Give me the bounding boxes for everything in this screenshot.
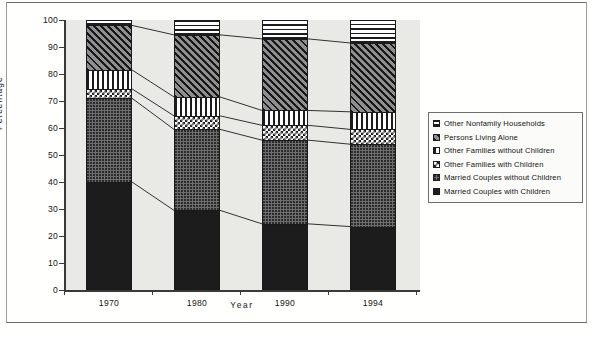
bar-segment <box>174 210 220 290</box>
left-rule <box>6 2 7 323</box>
y-tick-label: 50 <box>18 150 58 160</box>
x-tick <box>152 290 153 295</box>
bar-segment <box>86 182 132 290</box>
x-tick <box>240 290 241 295</box>
y-tick-label: 100 <box>18 15 58 25</box>
bar-1994[interactable] <box>350 20 396 290</box>
y-tick-label: 0 <box>18 285 58 295</box>
top-rule <box>6 2 587 3</box>
y-tick <box>59 155 65 156</box>
bar-1990[interactable] <box>262 20 308 290</box>
y-tick-label: 40 <box>18 177 58 187</box>
y-tick <box>59 47 65 48</box>
bar-segment <box>86 70 132 89</box>
y-tick <box>59 128 65 129</box>
bar-1970[interactable] <box>86 20 132 290</box>
bottom-rule <box>6 322 587 323</box>
legend-item[interactable]: Other Nonfamily Households <box>433 118 577 129</box>
legend-item[interactable]: Married Couples with Children <box>433 186 577 197</box>
legend: Other Nonfamily HouseholdsPersons Living… <box>428 112 583 203</box>
bar-segment <box>350 43 396 112</box>
legend-swatch-icon <box>433 174 440 181</box>
legend-item[interactable]: Other Families without Children <box>433 145 577 156</box>
y-tick-label: 20 <box>18 231 58 241</box>
legend-item[interactable]: Married Couples without Children <box>433 172 577 183</box>
right-rule <box>586 2 587 323</box>
y-tick-label: 10 <box>18 258 58 268</box>
x-axis-title: Year <box>64 300 420 310</box>
y-tick-label: 30 <box>18 204 58 214</box>
bar-segment <box>174 97 220 116</box>
bar-segment <box>174 20 220 35</box>
plot-area: 1970198019901994 <box>64 20 420 290</box>
bar-segment <box>174 116 220 130</box>
bar-1980[interactable] <box>174 20 220 290</box>
y-tick <box>59 236 65 237</box>
legend-item[interactable]: Other Families with Children <box>433 159 577 170</box>
bar-segment <box>262 20 308 39</box>
bar-segment <box>350 20 396 43</box>
y-tick <box>59 263 65 264</box>
x-tick <box>64 290 65 295</box>
bar-segment <box>350 112 396 130</box>
legend-swatch-icon <box>433 147 440 154</box>
legend-swatch-icon <box>433 134 440 141</box>
bar-segment <box>350 129 396 144</box>
legend-swatch-icon <box>433 161 440 168</box>
y-tick <box>59 20 65 21</box>
bar-segment <box>86 89 132 98</box>
legend-swatch-icon <box>433 188 440 195</box>
x-axis-line <box>64 290 420 292</box>
y-tick <box>59 182 65 183</box>
y-tick-label: 90 <box>18 42 58 52</box>
legend-swatch-icon <box>433 120 440 127</box>
y-tick <box>59 74 65 75</box>
y-axis-title: Percentage <box>0 76 4 130</box>
bar-segment <box>262 110 308 125</box>
y-tick-label: 60 <box>18 123 58 133</box>
legend-label: Married Couples without Children <box>444 173 561 182</box>
y-tick-label: 80 <box>18 69 58 79</box>
legend-label: Other Nonfamily Households <box>444 119 545 128</box>
bar-segment <box>174 35 220 97</box>
x-tick <box>416 290 417 295</box>
figure-container: Percentage 0102030405060708090100 197019… <box>0 0 593 339</box>
legend-label: Other Families without Children <box>444 146 555 155</box>
bar-segment <box>86 25 132 70</box>
bar-segment <box>174 129 220 210</box>
y-axis-labels: 0102030405060708090100 <box>14 20 58 292</box>
y-tick <box>59 101 65 102</box>
legend-label: Persons Living Alone <box>444 133 518 142</box>
bar-segment <box>262 224 308 290</box>
y-tick <box>59 209 65 210</box>
y-tick-label: 70 <box>18 96 58 106</box>
bar-segment <box>262 140 308 224</box>
bar-segment <box>86 20 132 25</box>
bar-segment <box>86 98 132 182</box>
legend-item[interactable]: Persons Living Alone <box>433 132 577 143</box>
bar-segment <box>350 144 396 226</box>
legend-label: Married Couples with Children <box>444 187 550 196</box>
bar-segment <box>350 227 396 290</box>
bar-segment <box>262 39 308 111</box>
legend-label: Other Families with Children <box>444 160 544 169</box>
x-tick <box>328 290 329 295</box>
bar-segment <box>262 125 308 140</box>
